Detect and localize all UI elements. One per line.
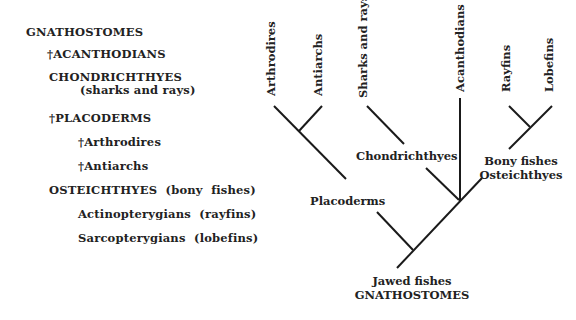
- node-label: Chondrichthyes: [356, 149, 458, 163]
- node-label: Bony fishes: [484, 154, 557, 168]
- branch-placoderms: [377, 212, 413, 250]
- tip-label: Arthrodires: [264, 21, 278, 97]
- branch-sharks: [367, 106, 404, 144]
- node-label: GNATHOSTOMES: [355, 288, 470, 302]
- tip-labels: ArthrodiresAntiarchsSharks and raysAcant…: [264, 0, 556, 98]
- tree-branches: [274, 98, 552, 268]
- branch-antiarchs: [299, 106, 322, 131]
- branch-chondrichthyes: [426, 168, 459, 200]
- tip-label: Rayfins: [499, 45, 513, 92]
- tip-label: Antiarchs: [311, 34, 325, 97]
- branch-arthrodires: [274, 106, 346, 179]
- node-label: Jawed fishes: [371, 274, 451, 288]
- tip-label: Sharks and rays: [356, 0, 370, 98]
- node-label: Placoderms: [310, 194, 385, 208]
- branch-main-stem: [397, 178, 482, 268]
- tip-label: Lobefins: [542, 38, 556, 92]
- tip-label: Acanthodians: [453, 4, 467, 93]
- cladogram: ArthrodiresAntiarchsSharks and raysAcant…: [0, 0, 576, 320]
- node-label: Osteichthyes: [480, 168, 563, 182]
- branch-rayfins: [509, 106, 530, 127]
